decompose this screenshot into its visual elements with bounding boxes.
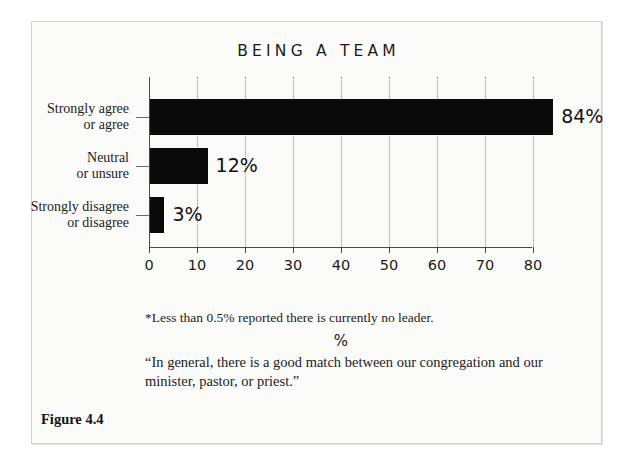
x-axis-tick-label: 80 <box>513 257 553 273</box>
x-axis-tick <box>437 247 438 253</box>
x-axis-tick-label: 60 <box>417 257 457 273</box>
category-label: Strongly agreeor agree <box>0 101 129 133</box>
x-axis-tick <box>533 247 534 253</box>
figure-caption: Figure 4.4 <box>41 411 104 428</box>
x-axis-tick <box>341 247 342 253</box>
x-axis-tick-label: 40 <box>321 257 361 273</box>
x-axis-label: % <box>326 332 356 350</box>
category-label-line: Strongly agree <box>0 101 129 117</box>
x-axis-tick-label: 0 <box>129 257 169 273</box>
x-axis-tick-label: 70 <box>465 257 505 273</box>
y-axis-tick <box>136 166 149 167</box>
category-label: Neutralor unsure <box>0 150 129 182</box>
x-axis-tick <box>389 247 390 253</box>
x-axis-tick-label: 20 <box>225 257 265 273</box>
bar-value-label: 12% <box>216 154 258 176</box>
y-axis-tick <box>136 215 149 216</box>
footnote-text: *Less than 0.5% reported there is curren… <box>145 310 434 326</box>
bar <box>150 99 553 135</box>
x-axis-tick <box>245 247 246 253</box>
category-label-line: Strongly disagree <box>0 199 129 215</box>
x-axis-tick-label: 50 <box>369 257 409 273</box>
chart-plot-area: Strongly agreeor agreeNeutralor unsureSt… <box>149 77 532 254</box>
category-label-line: or unsure <box>0 166 129 182</box>
bar-value-label: 84% <box>561 105 603 127</box>
bar-value-label: 3% <box>172 203 202 225</box>
figure-frame: BEING A TEAM Strongly agreeor agreeNeutr… <box>31 21 602 444</box>
x-axis-tick <box>197 247 198 253</box>
category-label-line: or disagree <box>0 215 129 231</box>
category-label-line: Neutral <box>0 150 129 166</box>
x-axis-tick <box>293 247 294 253</box>
category-label: Strongly disagreeor disagree <box>0 199 129 231</box>
survey-quote: “In general, there is a good match betwe… <box>145 353 565 391</box>
x-axis-tick-label: 10 <box>177 257 217 273</box>
bar <box>150 197 164 233</box>
x-axis-tick <box>149 247 150 253</box>
chart-title: BEING A TEAM <box>32 42 601 60</box>
y-axis-tick <box>136 117 149 118</box>
x-axis-tick-label: 30 <box>273 257 313 273</box>
category-label-line: or agree <box>0 117 129 133</box>
x-axis-tick <box>485 247 486 253</box>
bar <box>150 148 208 184</box>
